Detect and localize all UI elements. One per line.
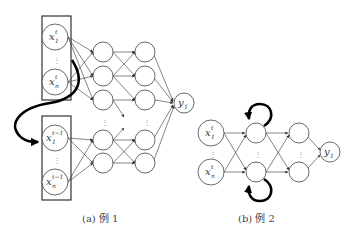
hidden-layer-1: ⋮ xyxy=(93,42,113,173)
input-node-xn-t: x t n xyxy=(42,69,68,95)
svg-text:t−1: t−1 xyxy=(52,173,63,180)
diagram-canvas: x t 1 ⋮ x t n x t−1 1 ⋮ x t−1 n xyxy=(0,0,348,240)
svg-text:1: 1 xyxy=(211,133,215,140)
edges-input-t-to-layer1 xyxy=(68,37,93,100)
hidden-layer-1-b: ⋮ xyxy=(246,123,266,182)
svg-text:n: n xyxy=(55,82,59,89)
neural-network-diagram: x t 1 ⋮ x t n x t−1 1 ⋮ x t−1 n xyxy=(0,0,348,240)
example-b: x t 1 ⋮ x t n ⋮ ⋮ y 1 (b) 例 2 xyxy=(198,104,340,224)
output-node-y1-a: y 1 xyxy=(174,93,194,113)
edges-input-t-1-to-layer1 xyxy=(68,138,93,182)
hidden-layer-2-b: ⋮ xyxy=(289,123,309,182)
svg-text:⋮: ⋮ xyxy=(254,150,262,159)
svg-text:1: 1 xyxy=(184,103,188,110)
hidden-layer-2: ⋮ xyxy=(135,42,155,173)
svg-text:1: 1 xyxy=(330,152,334,159)
svg-text:⋮: ⋮ xyxy=(143,118,151,127)
ellipsis: ⋮ xyxy=(53,156,61,165)
input-node-xn-t-minus-1: x t−1 n xyxy=(42,169,68,195)
input-node-x1-t: x t 1 xyxy=(42,24,68,50)
svg-text:⋮: ⋮ xyxy=(297,150,305,159)
input-node-x1-t-b: x t 1 xyxy=(198,120,224,146)
edges-layer2-to-output xyxy=(154,55,174,160)
input-node-xn-t-b: x t n xyxy=(198,159,224,185)
input-node-x1-t-minus-1: x t−1 1 xyxy=(42,125,68,151)
svg-text:y: y xyxy=(177,97,184,108)
caption-b: (b) 例 2 xyxy=(238,212,275,224)
example-a: x t 1 ⋮ x t n x t−1 1 ⋮ x t−1 n xyxy=(15,16,194,224)
svg-text:n: n xyxy=(52,182,56,189)
edges-layer1-to-layer2 xyxy=(113,52,135,163)
ellipsis: ⋮ xyxy=(53,56,61,65)
svg-text:y: y xyxy=(323,146,330,157)
self-loop-top xyxy=(249,104,271,126)
output-node-y1-b: y 1 xyxy=(320,142,340,162)
caption-a: (a) 例 1 xyxy=(82,212,118,224)
svg-text:t−1: t−1 xyxy=(52,129,63,136)
svg-text:1: 1 xyxy=(52,138,56,145)
svg-text:1: 1 xyxy=(55,37,59,44)
self-loop-bottom xyxy=(249,179,271,201)
svg-text:⋮: ⋮ xyxy=(209,150,217,159)
svg-text:⋮: ⋮ xyxy=(101,118,109,127)
svg-text:n: n xyxy=(211,172,215,179)
